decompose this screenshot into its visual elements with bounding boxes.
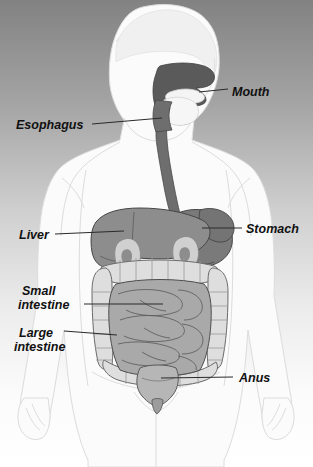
label-esophagus: Esophagus (16, 118, 83, 132)
diagram-canvas: Mouth Esophagus Liver Stomach Small inte… (0, 0, 313, 467)
label-liver: Liver (19, 228, 50, 242)
label-mouth: Mouth (232, 85, 270, 99)
label-small-intestine-line2: intestine (18, 298, 69, 312)
small-intestine-organ-group (109, 280, 211, 377)
digestive-system-diagram: Mouth Esophagus Liver Stomach Small inte… (0, 0, 313, 467)
label-large-intestine-line2: intestine (14, 340, 65, 354)
label-small-intestine-line1: Small (22, 284, 56, 298)
label-large-intestine-line1: Large (19, 326, 53, 340)
pharynx (153, 100, 172, 132)
kidney-right-hilum (179, 247, 190, 261)
label-anus: Anus (238, 371, 270, 385)
hand-left (18, 398, 50, 440)
hand-right (262, 398, 294, 440)
label-stomach: Stomach (246, 222, 299, 236)
